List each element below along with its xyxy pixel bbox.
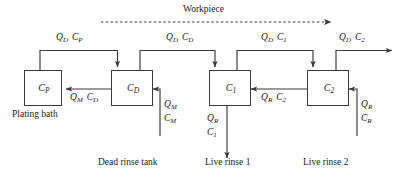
tank-dead-rinse-label: CD	[112, 83, 154, 94]
caption-plating-bath: Plating bath	[12, 110, 58, 120]
makeup-feed-path	[153, 89, 160, 136]
rinse-water-feed-path	[349, 89, 357, 136]
tank-live-rinse-2-label: C2	[308, 83, 350, 94]
rinse-discharge-flow: QR	[207, 113, 218, 127]
dragout-2-path	[140, 51, 215, 71]
rinse-water-feed-label: QR CR	[361, 99, 372, 127]
tank-live-rinse-1-label: C1	[210, 83, 252, 94]
dragout-1-label: QDCP	[56, 33, 83, 44]
rinse-return-label: QRC2	[261, 93, 286, 104]
rinse-water-feed-flow: QR	[361, 99, 372, 113]
rinse-water-feed-conc: CR	[361, 113, 372, 127]
rinse-discharge-conc: C1	[207, 127, 218, 141]
tank-plating-bath-label: CP	[25, 83, 63, 94]
dragout-4-label: QDC2	[339, 33, 365, 44]
makeup-feed-flow: QM	[164, 99, 177, 113]
workpiece-label: Workpiece	[183, 5, 224, 15]
tank-live-rinse-1[interactable]: C1	[209, 70, 251, 106]
dragout-3-label: QDC1	[261, 33, 287, 44]
caption-live-rinse-1: Live rinse 1	[205, 158, 250, 168]
tank-live-rinse-2[interactable]: C2	[307, 70, 349, 106]
dragout-4-path	[336, 51, 392, 71]
makeup-return-label: QMCD	[70, 93, 98, 104]
makeup-feed-conc: CM	[164, 113, 177, 127]
tank-plating-bath[interactable]: CP	[24, 70, 62, 106]
tank-dead-rinse[interactable]: CD	[111, 70, 153, 106]
caption-dead-rinse-tank: Dead rinse tank	[98, 158, 158, 168]
process-flow-diagram: CP CD C1 C2 Workpiece QDCP QDCD QDC1 QDC…	[0, 0, 401, 182]
caption-live-rinse-2: Live rinse 2	[303, 158, 348, 168]
dragout-3-path	[237, 51, 313, 71]
makeup-feed-label: QM CM	[164, 99, 177, 127]
dragout-1-path	[40, 51, 118, 71]
rinse-discharge-label: QR C1	[207, 113, 218, 141]
dragout-2-label: QDCD	[166, 33, 193, 44]
